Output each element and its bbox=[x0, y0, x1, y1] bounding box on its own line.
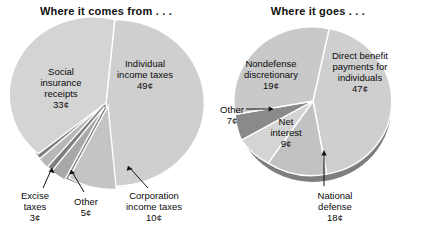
label-line: individuals bbox=[316, 72, 404, 83]
label-line: Direct benefit bbox=[316, 50, 404, 61]
chart-panel-spending: Where it goes . . . bbox=[212, 0, 424, 236]
label-line: Excise bbox=[8, 190, 62, 201]
label-value: 9¢ bbox=[260, 138, 312, 149]
chart-panel-revenue: Where it comes from . . . bbox=[0, 0, 212, 236]
label-line: Other bbox=[212, 104, 252, 115]
pie-label-net-interest: Net interest 9¢ bbox=[260, 116, 312, 149]
label-line: Corporation bbox=[112, 190, 196, 201]
label-line: payments for bbox=[316, 61, 404, 72]
label-value: 10¢ bbox=[112, 212, 196, 223]
label-line: National bbox=[292, 190, 378, 201]
label-line: insurance bbox=[22, 77, 100, 88]
pie-chart-spending: Nondefense discretionary 19¢ Direct bene… bbox=[212, 0, 424, 236]
pie-label-excise-taxes: Excise taxes 3¢ bbox=[8, 190, 62, 223]
label-line: Nondefense bbox=[228, 58, 314, 69]
pie-label-other-spending: Other 7¢ bbox=[212, 104, 252, 126]
label-line: taxes bbox=[8, 201, 62, 212]
pie-label-corporation-income-taxes: Corporation income taxes 10¢ bbox=[112, 190, 196, 223]
label-value: 5¢ bbox=[63, 207, 109, 218]
pie-label-other-revenue: Other 5¢ bbox=[63, 196, 109, 218]
label-line: receipts bbox=[22, 88, 100, 99]
label-line: income taxes bbox=[112, 201, 196, 212]
label-value: 7¢ bbox=[212, 115, 252, 126]
label-value: 49¢ bbox=[104, 80, 186, 91]
pie-label-individual-income-taxes: Individual income taxes 49¢ bbox=[104, 58, 186, 91]
pie-label-national-defense: National defense 18¢ bbox=[292, 190, 378, 223]
label-line: interest bbox=[260, 127, 312, 138]
label-line: Social bbox=[22, 66, 100, 77]
pie-label-direct-benefit-payments: Direct benefit payments for individuals … bbox=[316, 50, 404, 94]
label-line: discretionary bbox=[228, 69, 314, 80]
label-value: 47¢ bbox=[316, 83, 404, 94]
pie-chart-revenue: Social insurance receipts 33¢ Individual… bbox=[0, 0, 212, 236]
label-line: defense bbox=[292, 201, 378, 212]
label-value: 18¢ bbox=[292, 212, 378, 223]
label-line: income taxes bbox=[104, 69, 186, 80]
label-line: Individual bbox=[104, 58, 186, 69]
pie-label-social-insurance-receipts: Social insurance receipts 33¢ bbox=[22, 66, 100, 110]
label-value: 19¢ bbox=[228, 80, 314, 91]
label-line: Net bbox=[260, 116, 312, 127]
pie-label-nondefense-discretionary: Nondefense discretionary 19¢ bbox=[228, 58, 314, 91]
label-value: 33¢ bbox=[22, 99, 100, 110]
label-line: Other bbox=[63, 196, 109, 207]
pie-slice-individual-income-taxes[interactable] bbox=[106, 20, 204, 187]
label-value: 3¢ bbox=[8, 212, 62, 223]
